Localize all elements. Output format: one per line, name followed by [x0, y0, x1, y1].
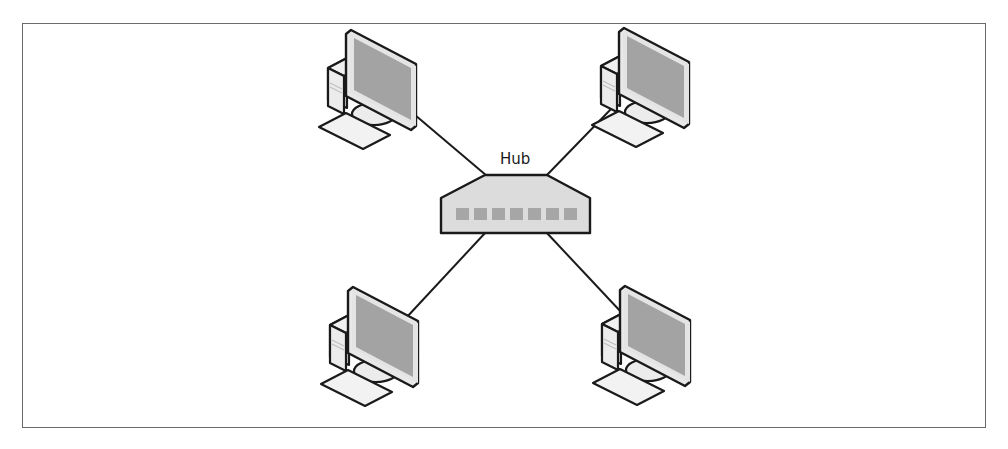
link-bottom-right [546, 232, 622, 313]
computer-bottom-left-icon [321, 287, 418, 406]
link-bottom-left [406, 232, 486, 318]
computer-top-left-icon [319, 30, 416, 149]
computer-bottom-right-icon [593, 286, 690, 405]
link-top-left [415, 115, 487, 176]
hub-ports [456, 208, 577, 220]
hub-icon [441, 175, 590, 233]
computer-top-right-icon [592, 28, 689, 147]
hub-label: Hub [500, 150, 530, 168]
link-top-right [546, 108, 612, 176]
network-diagram: Hub [0, 0, 1008, 449]
